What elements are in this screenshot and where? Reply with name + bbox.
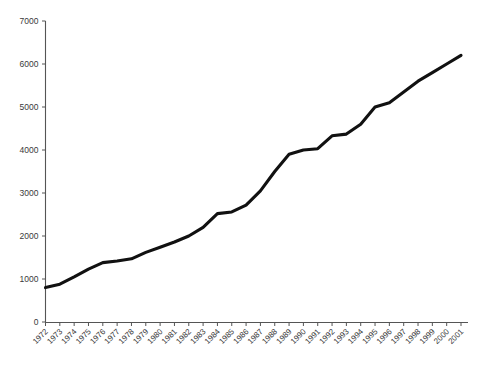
- y-axis: 01000200030004000500060007000: [20, 16, 46, 327]
- chart-canvas: 01000200030004000500060007000 1972197319…: [0, 0, 477, 369]
- y-tick-label: 4000: [20, 145, 39, 155]
- y-tick-label: 2000: [20, 231, 39, 241]
- y-tick-label: 6000: [20, 59, 39, 69]
- y-tick-label: 7000: [20, 16, 39, 26]
- x-axis: 1972197319741975197619771978197919801981…: [31, 322, 468, 346]
- y-axis-ticks: 01000200030004000500060007000: [20, 16, 46, 327]
- data-line-series-1: [46, 55, 462, 287]
- x-tick-label: 2001: [446, 327, 465, 346]
- x-axis-ticks: 1972197319741975197619771978197919801981…: [31, 322, 466, 346]
- y-tick-label: 5000: [20, 102, 39, 112]
- line-chart: 01000200030004000500060007000 1972197319…: [0, 0, 477, 369]
- y-tick-label: 3000: [20, 188, 39, 198]
- data-series-group: [46, 55, 462, 287]
- y-tick-label: 0: [34, 317, 39, 327]
- y-tick-label: 1000: [20, 274, 39, 284]
